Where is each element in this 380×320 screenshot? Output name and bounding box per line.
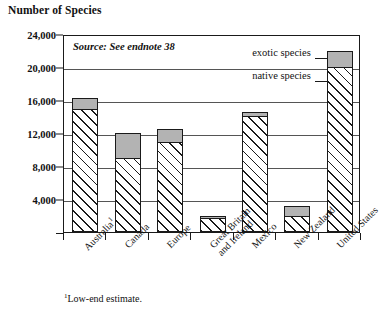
- x-tick-mark: [190, 233, 191, 240]
- y-tick-mark: [56, 101, 63, 102]
- y-tick-mark: [56, 68, 63, 69]
- y-axis: 4,0008,00012,00016,00020,00024,000: [0, 0, 56, 320]
- legend-label-exotic: exotic species: [252, 47, 311, 58]
- y-tick-mark: [56, 200, 63, 201]
- y-tick-mark: [56, 167, 63, 168]
- bar-europe: [157, 129, 183, 232]
- y-tick-label: 20,000: [4, 63, 56, 74]
- y-tick-label: 16,000: [4, 96, 56, 107]
- y-tick-label: 4,000: [4, 195, 56, 206]
- footnote: 1Low-end estimate.: [64, 292, 142, 304]
- y-tick-label: 12,000: [4, 129, 56, 140]
- bar-segment-exotic: [242, 112, 268, 117]
- x-tick-mark: [275, 233, 276, 240]
- bar-canada: [115, 133, 141, 232]
- bar-segment-native: [115, 158, 141, 232]
- x-tick-mark: [318, 233, 319, 240]
- bar-australia: [72, 98, 98, 232]
- bar-segment-native: [72, 108, 98, 232]
- plot-area: Source: See endnote 38 exotic species na…: [63, 35, 360, 233]
- legend-leader-native: [315, 81, 327, 82]
- legend-leader-exotic: [315, 58, 327, 59]
- bar-segment-exotic: [157, 129, 183, 143]
- x-tick-mark: [360, 233, 361, 240]
- bars-layer: [64, 36, 359, 232]
- bar-segment-exotic: [284, 206, 310, 217]
- x-tick-mark: [148, 233, 149, 240]
- y-tick-label: 8,000: [4, 162, 56, 173]
- bar-segment-exotic: [327, 51, 353, 69]
- bar-segment-exotic: [200, 216, 226, 220]
- bar-united-states: [327, 51, 353, 233]
- y-tick-mark: [56, 35, 63, 36]
- bar-segment-exotic: [72, 98, 98, 110]
- y-tick-mark: [56, 134, 63, 135]
- bar-segment-exotic: [115, 133, 141, 159]
- y-tick-label: 24,000: [4, 30, 56, 41]
- legend-label-native: native species: [252, 70, 311, 81]
- bar-segment-native: [157, 141, 183, 232]
- footnote-text: Low-end estimate.: [68, 293, 142, 304]
- x-tick-mark: [63, 233, 64, 240]
